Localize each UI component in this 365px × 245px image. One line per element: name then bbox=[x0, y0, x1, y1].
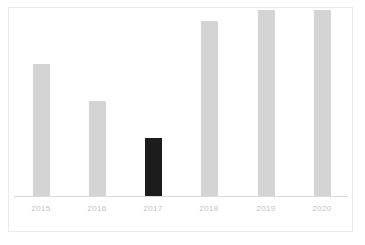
x-tick-label-2015: 2015 bbox=[19, 203, 63, 215]
bar-slot bbox=[89, 10, 106, 196]
x-tick-label-2019: 2019 bbox=[244, 203, 288, 215]
x-tick-label-2017: 2017 bbox=[131, 203, 175, 215]
bar-slot bbox=[258, 10, 275, 196]
bar-slot bbox=[201, 10, 218, 196]
plot-area bbox=[14, 10, 347, 196]
bar-2020[interactable] bbox=[314, 10, 331, 196]
bar-slot bbox=[145, 10, 162, 196]
bar-2018[interactable] bbox=[201, 21, 218, 196]
x-tick-label-2020: 2020 bbox=[300, 203, 344, 215]
bar-slot bbox=[314, 10, 331, 196]
bar-chart: 2015 2016 2017 2018 2019 2020 bbox=[0, 0, 365, 245]
bar-2019[interactable] bbox=[258, 10, 275, 196]
bar-2017[interactable] bbox=[145, 138, 162, 196]
x-axis-labels: 2015 2016 2017 2018 2019 2020 bbox=[14, 203, 347, 219]
bar-slot bbox=[33, 10, 50, 196]
x-tick-label-2018: 2018 bbox=[187, 203, 231, 215]
x-axis-line bbox=[14, 196, 348, 197]
x-tick-label-2016: 2016 bbox=[75, 203, 119, 215]
bar-2016[interactable] bbox=[89, 101, 106, 196]
bar-2015[interactable] bbox=[33, 64, 50, 196]
